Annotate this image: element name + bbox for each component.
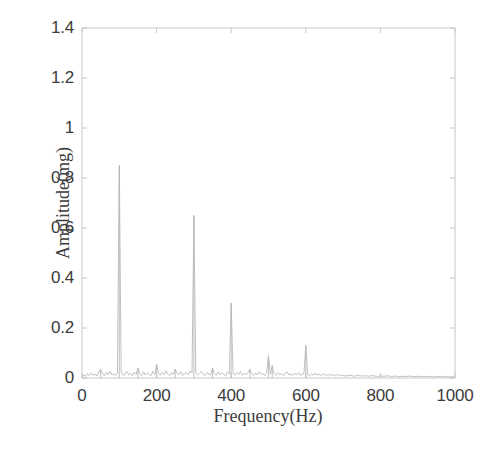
x-axis-tick-label: 0 — [77, 386, 86, 406]
y-axis-tick-label: 0.2 — [28, 318, 74, 338]
y-axis-tick-label: 0.4 — [28, 268, 74, 288]
x-axis-title: Frequency(Hz) — [214, 406, 323, 427]
axes-layer — [82, 28, 455, 378]
fft-spectrum-plot — [0, 0, 501, 450]
y-axis-tick-label: 1.2 — [28, 68, 74, 88]
y-axis-title: Amplitude(mg) — [53, 147, 74, 259]
x-axis-tick-label: 1000 — [436, 386, 473, 406]
y-axis-tick-label: 1 — [28, 118, 74, 138]
y-axis-tick-label: 1.4 — [28, 18, 74, 38]
x-axis-tick-label: 400 — [217, 386, 245, 406]
figure-container: 00.20.40.60.811.21.4 02004006008001000 F… — [0, 0, 501, 450]
x-axis-tick-label: 200 — [143, 386, 171, 406]
x-axis-tick-label: 800 — [367, 386, 395, 406]
spectrum-trace — [82, 166, 455, 378]
y-axis-tick-label: 0 — [28, 368, 74, 388]
series-layer — [82, 166, 455, 379]
x-axis-tick-label: 600 — [292, 386, 320, 406]
